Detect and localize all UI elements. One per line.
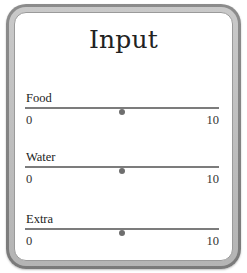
input-panel-frame: Input Food 0 10 Water 0 10 Extra 0 1 bbox=[6, 4, 241, 269]
slider-label-water: Water bbox=[26, 150, 56, 165]
slider-thumb-food[interactable] bbox=[119, 109, 125, 115]
panel-title: Input bbox=[15, 25, 232, 54]
slider-max-food: 10 bbox=[207, 113, 220, 128]
slider-max-water: 10 bbox=[207, 172, 220, 187]
slider-food: Food 0 10 bbox=[25, 91, 219, 131]
input-panel: Input Food 0 10 Water 0 10 Extra 0 1 bbox=[14, 12, 233, 261]
slider-thumb-extra[interactable] bbox=[119, 230, 125, 236]
slider-max-extra: 10 bbox=[207, 234, 220, 249]
slider-label-food: Food bbox=[26, 91, 52, 106]
slider-extra: Extra 0 10 bbox=[25, 212, 219, 252]
frame-bevel: Input Food 0 10 Water 0 10 Extra 0 1 bbox=[9, 7, 238, 266]
slider-thumb-water[interactable] bbox=[119, 168, 125, 174]
slider-min-food: 0 bbox=[26, 113, 32, 128]
slider-min-extra: 0 bbox=[26, 234, 32, 249]
slider-water: Water 0 10 bbox=[25, 150, 219, 190]
slider-min-water: 0 bbox=[26, 172, 32, 187]
slider-label-extra: Extra bbox=[26, 212, 53, 227]
